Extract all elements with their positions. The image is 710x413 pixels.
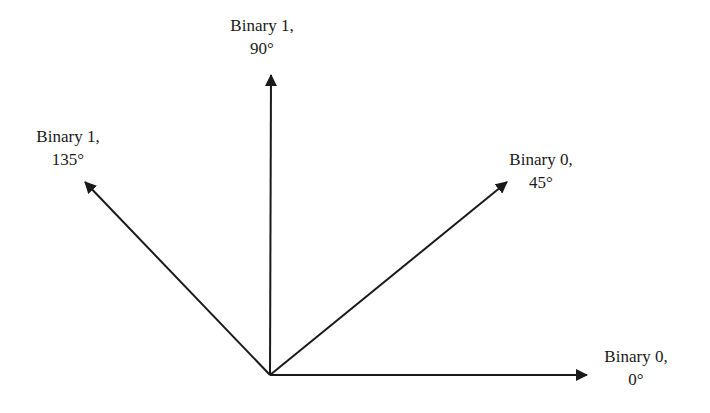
- angle-label-0: 0°: [604, 368, 667, 391]
- label-vector-45: Binary 0, 45°: [509, 148, 572, 194]
- binary-label-45: Binary 0,: [509, 148, 572, 171]
- arrow-45deg: [270, 182, 507, 375]
- binary-label-135: Binary 1,: [36, 125, 99, 148]
- label-vector-135: Binary 1, 135°: [36, 125, 99, 171]
- angle-label-135: 135°: [36, 148, 99, 171]
- vector-group: [85, 75, 587, 375]
- angle-label-90: 90°: [230, 37, 293, 60]
- angle-label-45: 45°: [509, 171, 572, 194]
- arrow-90deg: [270, 75, 271, 375]
- label-vector-90: Binary 1, 90°: [230, 14, 293, 60]
- binary-label-90: Binary 1,: [230, 14, 293, 37]
- binary-label-0: Binary 0,: [604, 345, 667, 368]
- arrow-135deg: [85, 182, 270, 375]
- label-vector-0: Binary 0, 0°: [604, 345, 667, 391]
